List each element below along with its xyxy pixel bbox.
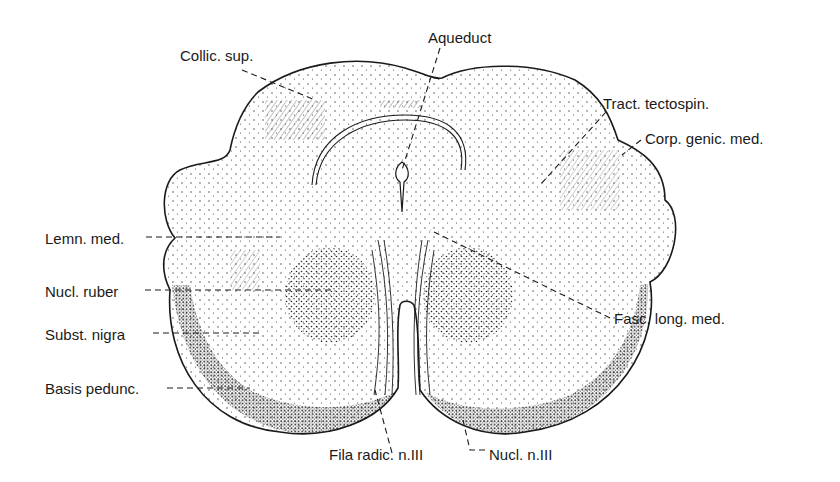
label-fasc-long-med: Fasc. long. med. (614, 311, 725, 326)
label-corp-genic-med: Corp. genic. med. (645, 131, 763, 146)
label-tract-tectospin: Tract. tectospin. (603, 96, 709, 111)
label-fila-radic: Fila radic. n.III (329, 447, 423, 462)
label-nucl-ruber: Nucl. ruber (45, 284, 118, 299)
label-basis-pedunc: Basis pedunc. (45, 381, 139, 396)
label-nucl-n3: Nucl. n.III (489, 447, 552, 462)
label-subst-nigra: Subst. nigra (45, 327, 125, 342)
label-collic-sup: Collic. sup. (180, 48, 253, 63)
label-lemn-med: Lemn. med. (45, 231, 124, 246)
midbrain-section-diagram (0, 0, 840, 482)
label-aqueduct: Aqueduct (428, 30, 491, 45)
